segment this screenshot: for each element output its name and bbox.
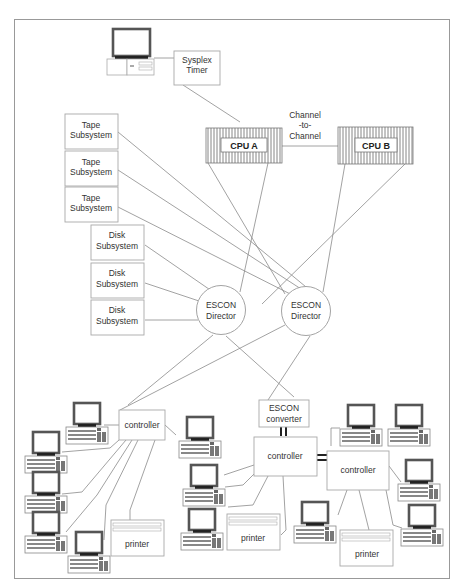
- tape-subsystem: Tape Subsystem: [65, 151, 118, 186]
- cpu-b-box: CPU B: [338, 127, 413, 164]
- svg-text:ESCON: ESCON: [206, 300, 236, 310]
- svg-text:ESCON: ESCON: [291, 300, 321, 310]
- disk-subsystem: Disk Subsystem: [91, 263, 144, 298]
- sysplex-timer-box: Sysplex Timer: [174, 51, 220, 85]
- escon-network-diagram: Sysplex Timer CPU A CPU B Channel -to- C…: [0, 0, 467, 588]
- svg-text:printer: printer: [241, 533, 265, 543]
- svg-text:printer: printer: [355, 549, 379, 559]
- cpu-b-label: CPU B: [362, 141, 391, 151]
- disk-subsystem: Disk Subsystem: [91, 300, 144, 335]
- escon-converter-box: ESCON converter: [259, 400, 309, 427]
- console-workstation-icon: [107, 29, 154, 75]
- sysplex-timer-label-1: Sysplex: [182, 55, 213, 65]
- cpu-a-label: CPU A: [230, 141, 258, 151]
- svg-text:Tape: Tape: [82, 193, 101, 203]
- controller-box: controller: [254, 437, 317, 476]
- escon-director-2: ESCON Director: [282, 287, 331, 336]
- svg-text:Subsystem: Subsystem: [70, 130, 112, 140]
- svg-text:printer: printer: [125, 539, 149, 549]
- sysplex-timer-label-2: Timer: [186, 65, 208, 75]
- svg-text:-to-: -to-: [299, 120, 312, 130]
- svg-text:Director: Director: [291, 311, 321, 321]
- disk-subsystem: Disk Subsystem: [91, 225, 144, 260]
- svg-text:Subsystem: Subsystem: [96, 316, 138, 326]
- svg-text:controller: controller: [341, 465, 376, 475]
- controller-box: controller: [327, 451, 389, 490]
- cpu-a-box: CPU A: [206, 128, 282, 163]
- svg-text:Channel: Channel: [289, 131, 321, 141]
- svg-text:Disk: Disk: [109, 305, 126, 315]
- svg-text:ESCON: ESCON: [269, 403, 299, 413]
- svg-text:Director: Director: [206, 311, 236, 321]
- svg-text:controller: controller: [268, 451, 303, 461]
- svg-text:Tape: Tape: [82, 157, 101, 167]
- svg-text:Subsystem: Subsystem: [70, 167, 112, 177]
- svg-text:Channel: Channel: [289, 110, 321, 120]
- controller-box: controller: [119, 410, 165, 440]
- svg-text:converter: converter: [266, 414, 302, 424]
- tape-subsystem: Tape Subsystem: [65, 114, 118, 149]
- svg-text:Subsystem: Subsystem: [96, 241, 138, 251]
- svg-text:controller: controller: [125, 420, 160, 430]
- printer: printer: [111, 520, 164, 556]
- escon-director-1: ESCON Director: [197, 286, 246, 335]
- printer: printer: [227, 514, 280, 550]
- svg-text:Disk: Disk: [109, 268, 126, 278]
- svg-text:Subsystem: Subsystem: [96, 279, 138, 289]
- svg-text:Subsystem: Subsystem: [70, 203, 112, 213]
- svg-text:Tape: Tape: [82, 120, 101, 130]
- svg-text:Disk: Disk: [109, 230, 126, 240]
- tape-subsystem: Tape Subsystem: [65, 187, 118, 222]
- printer: printer: [340, 530, 393, 566]
